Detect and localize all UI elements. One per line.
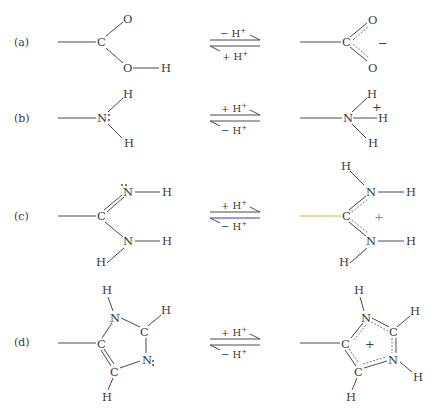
positive-charge: +	[365, 337, 375, 351]
equilibrium-arrow-d: + H+ − H+	[210, 326, 260, 360]
atom-n: N	[343, 111, 353, 125]
atom-h: H	[124, 136, 134, 150]
atom-h: H	[123, 87, 133, 101]
row-label-b: (b)	[14, 112, 30, 125]
guanidinium-structure: C H N H + N H H	[300, 159, 416, 269]
atom-c: C	[97, 35, 106, 49]
row-d: (d) H N C H C N C H + H+	[14, 283, 423, 404]
arrow-bottom-label: − H+	[221, 348, 247, 360]
ammonium-structure: N H H + H	[300, 87, 388, 150]
atom-n: N	[366, 185, 376, 199]
equilibrium-arrow-c: + H+ − H+	[210, 199, 260, 232]
atom-c: C	[97, 209, 106, 223]
atom-h: H	[341, 159, 351, 173]
arrow-bottom-label: − H+	[221, 220, 247, 232]
atom-h: H	[161, 303, 171, 317]
protonation-diagram: (a) C O O H − H+ + H+ C O	[0, 0, 434, 411]
arrow-top-label: + H+	[221, 326, 247, 338]
atom-o: O	[123, 12, 132, 26]
atom-c: C	[389, 325, 398, 339]
row-label-a: (a)	[14, 36, 29, 49]
atom-c: C	[354, 365, 363, 379]
atom-c: C	[342, 209, 351, 223]
atom-h: H	[368, 136, 378, 150]
carboxylic-acid-structure: C O O H	[58, 12, 171, 75]
atom-o: O	[123, 61, 132, 75]
atom-h: H	[406, 185, 416, 199]
atom-h: H	[413, 370, 423, 384]
atom-h: H	[96, 255, 106, 269]
atom-c: C	[342, 35, 351, 49]
atom-h: H	[339, 255, 349, 269]
row-a: (a) C O O H − H+ + H+ C O	[14, 12, 388, 75]
atom-n: N	[388, 353, 398, 367]
lone-pair-dot	[152, 360, 154, 362]
row-b: (b) N H H + H+ − H+ N H H +	[14, 87, 388, 150]
arrow-top-label: + H+	[221, 102, 247, 114]
negative-charge: −	[378, 36, 388, 50]
arrow-top-label: + H+	[221, 199, 247, 211]
positive-charge: +	[372, 100, 382, 114]
atom-n: N	[97, 111, 107, 125]
lone-pair-dot	[152, 364, 154, 366]
atom-n: N	[123, 185, 133, 199]
row-label-c: (c)	[14, 210, 29, 223]
carboxylate-structure: C O O −	[300, 13, 388, 75]
lone-pair-dot	[108, 114, 110, 116]
atom-o: O	[368, 13, 377, 27]
atom-o: O	[368, 61, 377, 75]
amine-structure: N H H	[58, 87, 134, 150]
atom-c: C	[341, 337, 350, 351]
atom-h: H	[354, 283, 364, 297]
atom-h: H	[162, 234, 172, 248]
equilibrium-arrow-b: + H+ − H+	[210, 102, 260, 136]
atom-h: H	[367, 87, 377, 101]
atom-h: H	[102, 390, 112, 404]
atom-h: H	[102, 283, 112, 297]
row-label-d: (d)	[14, 336, 30, 349]
arrow-bottom-label: + H+	[222, 50, 248, 62]
row-c: (c) C N H N H H + H+ − H+	[14, 159, 416, 269]
atom-n: N	[142, 353, 152, 367]
lone-pair-dot	[108, 119, 110, 121]
atom-h: H	[406, 234, 416, 248]
atom-n: N	[123, 234, 133, 248]
imidazole-structure: H N C H C N C H	[58, 283, 171, 404]
atom-c: C	[140, 325, 149, 339]
atom-h: H	[410, 304, 420, 318]
arrow-top-label: − H+	[220, 27, 246, 39]
positive-charge: +	[374, 210, 384, 224]
amidine-structure: C N H N H H	[58, 184, 172, 269]
atom-h: H	[162, 185, 172, 199]
atom-h: H	[161, 61, 171, 75]
atom-h: H	[346, 390, 356, 404]
imidazolium-structure: H N C H C + N H C H	[300, 283, 423, 404]
atom-c: C	[97, 337, 106, 351]
atom-c: C	[110, 365, 119, 379]
atom-n: N	[366, 234, 376, 248]
arrow-bottom-label: − H+	[221, 124, 247, 136]
equilibrium-arrow-a: − H+ + H+	[210, 27, 260, 62]
